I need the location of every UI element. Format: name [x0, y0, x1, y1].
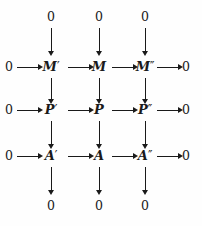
node-a-double-prime: A″	[128, 147, 162, 165]
arrow-down-p-to-a-col1	[47, 121, 56, 149]
node-a: A	[82, 147, 116, 165]
commutative-diagram: 0 0 0 0 M′ M M″ 0	[0, 0, 202, 226]
top-zero-col2: 0	[82, 8, 116, 26]
node-p-base: P	[94, 102, 104, 117]
top-zero-col3: 0	[128, 8, 162, 26]
node-p-prime-mark: ′	[55, 103, 58, 117]
node-a-prime-base: A	[45, 148, 55, 163]
node-p-prime-base: P	[45, 102, 55, 117]
arrow-down-bottom-col1	[47, 167, 56, 195]
node-a-double-prime-base: A	[138, 148, 148, 163]
node-a-prime: A′	[34, 147, 68, 165]
node-m-base: M	[92, 59, 106, 74]
row-a-left-zero: 0	[0, 147, 26, 165]
arrow-down-p-to-a-col3	[141, 121, 150, 149]
node-m: M	[82, 58, 116, 76]
node-a-prime-mark: ′	[55, 149, 58, 163]
bottom-zero-col1: 0	[34, 197, 68, 215]
arrow-down-top-col1	[47, 28, 56, 56]
row-a-right-zero: 0	[169, 147, 202, 165]
node-a-double-prime-mark: ″	[148, 149, 152, 163]
row-p-left-zero: 0	[0, 101, 26, 119]
node-m-prime-mark: ′	[57, 60, 60, 74]
node-p: P	[82, 101, 116, 119]
node-m-double-prime-base: M	[136, 59, 150, 74]
node-m-double-prime: M″	[128, 58, 162, 76]
node-m-prime: M′	[34, 58, 68, 76]
row-p-right-zero: 0	[169, 101, 202, 119]
row-m-right-zero: 0	[169, 58, 202, 76]
arrow-down-top-col2	[95, 28, 104, 56]
node-p-double-prime-base: P	[138, 102, 148, 117]
arrow-down-bottom-col2	[95, 167, 104, 195]
node-p-double-prime: P″	[128, 101, 162, 119]
node-m-prime-base: M	[43, 59, 57, 74]
arrow-down-top-col3	[141, 28, 150, 56]
node-p-prime: P′	[34, 101, 68, 119]
node-p-double-prime-mark: ″	[148, 103, 152, 117]
node-a-base: A	[94, 148, 104, 163]
top-zero-col1: 0	[34, 8, 68, 26]
arrow-down-p-to-a-col2	[95, 121, 104, 149]
arrow-down-bottom-col3	[141, 167, 150, 195]
bottom-zero-col3: 0	[128, 197, 162, 215]
bottom-zero-col2: 0	[82, 197, 116, 215]
row-m-left-zero: 0	[0, 58, 26, 76]
node-m-double-prime-mark: ″	[150, 60, 154, 74]
